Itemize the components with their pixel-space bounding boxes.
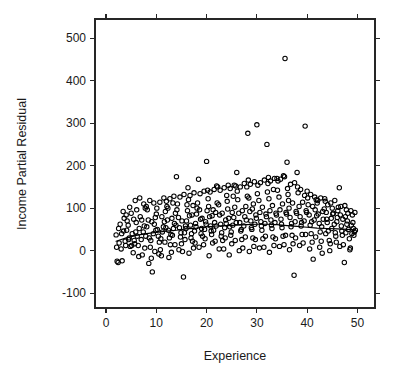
y-tick-label: 500 [66, 31, 86, 45]
x-tick-label: 30 [250, 316, 264, 330]
x-tick-label: 40 [300, 316, 314, 330]
y-tick-label: 200 [66, 159, 86, 173]
x-axis-title: Experience [204, 349, 267, 363]
y-tick-label: 100 [66, 201, 86, 215]
scatter-plot-figure: 01020304050 -1000100200300400500 Experie… [0, 0, 397, 378]
y-tick-label: -100 [62, 286, 86, 300]
y-tick-label: 0 [79, 244, 86, 258]
x-tick-label: 10 [150, 316, 164, 330]
x-tick-label: 0 [103, 316, 110, 330]
y-tick-label: 300 [66, 116, 86, 130]
plot-canvas: 01020304050 -1000100200300400500 Experie… [0, 0, 397, 378]
x-tick-label: 50 [351, 316, 365, 330]
y-tick-label: 400 [66, 74, 86, 88]
x-tick-label: 20 [200, 316, 214, 330]
y-axis-title: Income Partial Residual [15, 98, 29, 230]
